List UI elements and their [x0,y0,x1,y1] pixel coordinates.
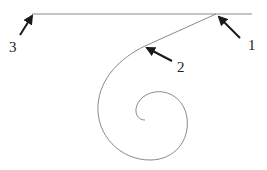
label-2: 2 [177,60,185,75]
label-3: 3 [9,40,17,55]
spiral-diagram [0,0,267,170]
arrow-2 [147,48,172,61]
arrow-1 [219,17,240,38]
label-1: 1 [248,38,256,53]
spiral-curve [98,46,187,160]
tangent-line [145,14,216,46]
arrow-3 [20,16,32,35]
